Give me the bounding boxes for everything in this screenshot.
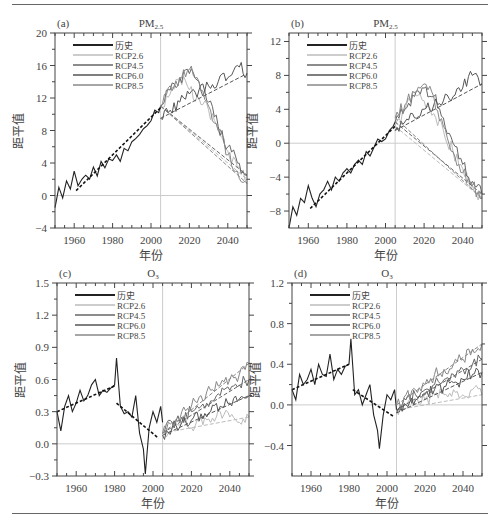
legend-label: RCP8.5 [349, 81, 378, 91]
y-tick-label: 0.3 [35, 406, 49, 418]
series-历史 [57, 358, 163, 474]
x-tick-label: 1980 [102, 234, 125, 246]
y-tick-label: −0.3 [29, 470, 49, 482]
panel-label: (a) [57, 17, 70, 30]
x-tick-label: 2040 [452, 482, 475, 494]
plot-frame [292, 283, 482, 476]
y-tick-label: 1.2 [35, 309, 49, 321]
legend-label: RCP8.5 [352, 331, 381, 341]
scenario-trend [161, 106, 247, 179]
series-历史 [289, 122, 395, 228]
y-tick-label: 0.6 [35, 374, 49, 386]
x-tick-label: 2000 [140, 234, 163, 246]
y-tick-label: −4 [269, 171, 281, 183]
x-tick-label: 1980 [104, 482, 127, 494]
x-tick-label: 2000 [142, 482, 165, 494]
y-tick-label: 8 [276, 69, 282, 81]
plot-frame [57, 283, 249, 476]
y-axis-title: 距平值 [245, 113, 260, 149]
panel-label: (b) [291, 17, 304, 30]
y-tick-label: −0.4 [264, 440, 284, 452]
legend-label: 历史 [117, 290, 135, 301]
x-tick-label: 1960 [300, 482, 323, 494]
x-tick-label: 2020 [413, 234, 436, 246]
x-axis-title: 年份 [141, 497, 165, 511]
x-tick-label: 2000 [375, 234, 398, 246]
legend-label: RCP4.5 [352, 311, 381, 321]
y-tick-label: 4 [276, 103, 282, 115]
legend-label: RCP6.0 [352, 321, 381, 331]
x-axis-title: 年份 [374, 249, 398, 263]
legend-label: 历史 [349, 40, 367, 51]
x-tick-label: 2000 [376, 482, 399, 494]
x-tick-label: 2020 [414, 482, 437, 494]
y-tick-label: 0.0 [35, 438, 49, 450]
series-RCP6.0 [161, 62, 247, 119]
panel-label: (c) [59, 267, 72, 280]
legend-label: RCP4.5 [117, 311, 146, 321]
legend-label: RCP4.5 [349, 61, 378, 71]
series-RCP2.6 [397, 386, 483, 415]
panel-a: 19601980200020202040−4048121620(a)PM2.5年… [11, 17, 252, 263]
x-axis-title: 年份 [375, 497, 399, 511]
panel-title: O3 [381, 267, 393, 281]
series-RCP4.5 [395, 87, 482, 194]
panel-title: PM2.5 [373, 17, 398, 31]
legend: 历史RCP2.6RCP4.5RCP6.0RCP8.5 [75, 290, 146, 341]
y-tick-label: 0 [276, 137, 282, 149]
panel-title: O3 [147, 267, 159, 281]
series-历史 [292, 339, 397, 449]
x-tick-label: 1980 [338, 482, 361, 494]
scenario-trend [161, 106, 247, 183]
legend-label: RCP6.0 [117, 321, 146, 331]
y-tick-label: 4 [42, 157, 48, 169]
series-RCP4.5 [161, 69, 247, 175]
y-tick-label: 0.0 [270, 399, 284, 411]
x-tick-label: 1980 [336, 234, 359, 246]
scenario-trend [395, 126, 482, 198]
panel-label: (d) [294, 267, 307, 280]
trend-line [76, 108, 160, 191]
x-tick-label: 2020 [178, 234, 201, 246]
legend-label: RCP6.0 [349, 71, 378, 81]
x-tick-label: 2040 [217, 234, 240, 246]
x-tick-label: 1960 [63, 234, 86, 246]
legend: 历史RCP2.6RCP4.5RCP6.0RCP8.5 [307, 40, 378, 91]
panel-title: PM2.5 [139, 17, 164, 31]
y-tick-label: −8 [269, 205, 281, 217]
y-tick-label: 12 [36, 92, 47, 104]
y-tick-label: 0 [42, 190, 48, 202]
legend-label: RCP8.5 [117, 331, 146, 341]
y-tick-label: 1.5 [35, 277, 49, 289]
y-tick-label: 16 [36, 60, 48, 72]
x-tick-label: 1960 [65, 482, 88, 494]
y-tick-label: 20 [36, 27, 48, 39]
y-tick-label: 0.8 [270, 318, 284, 330]
trend-line [117, 403, 159, 438]
x-tick-label: 2020 [180, 482, 203, 494]
panel-b: 19601980200020202040−8−404812(b)PM2.5年份距… [245, 17, 487, 263]
scenario-trend [161, 106, 247, 175]
y-axis-title: 距平值 [11, 113, 26, 149]
x-axis-title: 年份 [139, 249, 163, 263]
legend: 历史RCP2.6RCP4.5RCP6.0RCP8.5 [310, 290, 381, 341]
x-tick-label: 2040 [452, 234, 475, 246]
panel-d: 19601980200020202040−0.40.00.40.81.2(d)O… [248, 267, 487, 511]
y-tick-label: 0.4 [270, 358, 284, 370]
legend-label: RCP4.5 [115, 61, 144, 71]
legend: 历史RCP2.6RCP4.5RCP6.0RCP8.5 [73, 40, 144, 91]
figure: 19601980200020202040−4048121620(a)PM2.5年… [0, 0, 500, 522]
legend-label: 历史 [115, 40, 133, 51]
y-tick-label: 8 [42, 125, 48, 137]
legend-label: RCP2.6 [349, 51, 378, 61]
series-RCP6.0 [163, 396, 249, 440]
series-历史 [55, 106, 161, 208]
y-tick-label: 0.9 [35, 341, 49, 353]
legend-label: RCP2.6 [352, 301, 381, 311]
legend-label: RCP8.5 [115, 81, 144, 91]
legend-label: RCP6.0 [115, 71, 144, 81]
trend-line [57, 386, 115, 412]
x-tick-label: 2040 [219, 482, 242, 494]
legend-label: 历史 [352, 290, 370, 301]
y-tick-label: 12 [270, 35, 281, 47]
